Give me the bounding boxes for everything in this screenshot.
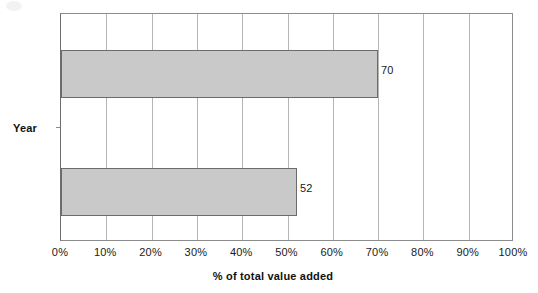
gridline-90 [469,14,470,240]
x-tick-label-80: 80% [411,246,434,258]
y-axis-title: Year [13,122,37,134]
plot-area [60,13,513,241]
gridline-70 [378,14,379,240]
x-axis-title-wrapper: % of total value added [0,270,538,282]
bar-value-2000: 70 [381,64,394,76]
bar-chart-figure: 2000 1973 Year 70 52 0% 10% 20% 30% 40% … [0,0,538,293]
x-tick-label-10: 10% [94,246,117,258]
x-tick-label-30: 30% [185,246,208,258]
x-tick-label-100: 100% [499,246,528,258]
x-tick-label-40: 40% [230,246,253,258]
x-tick-label-20: 20% [139,246,162,258]
x-tick-label-90: 90% [456,246,479,258]
x-axis-title: % of total value added [213,270,334,282]
bar-2000 [61,50,378,98]
x-tick-label-70: 70% [366,246,389,258]
gridline-80 [423,14,424,240]
bar-1973 [61,168,297,216]
x-tick-label-50: 50% [275,246,298,258]
x-tick-label-60: 60% [320,246,343,258]
gridline-60 [333,14,334,240]
bar-value-1973: 52 [300,182,313,194]
x-tick-label-0: 0% [52,246,68,258]
scan-artifact [6,1,22,11]
